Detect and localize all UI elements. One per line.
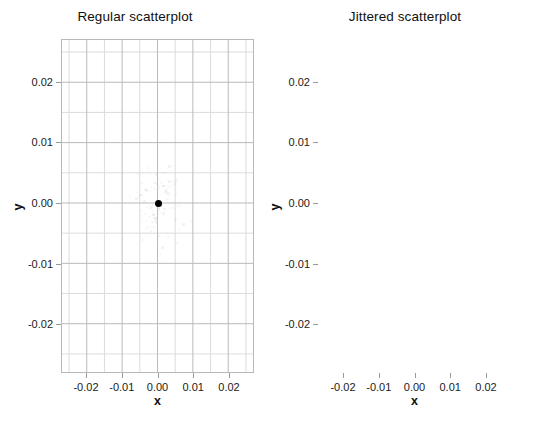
haze-dot — [155, 217, 157, 219]
haze-dot — [154, 188, 156, 190]
plot-area-regular — [61, 39, 254, 373]
panel-jittered-scatterplot: Jittered scatterplot -0.02-0.010.000.010… — [270, 0, 540, 427]
haze-dot — [157, 234, 160, 237]
y-tick-mark — [313, 264, 318, 265]
figure-canvas: Regular scatterplot -0.02-0.010.000.010.… — [0, 0, 540, 427]
y-tick-mark — [313, 203, 318, 204]
x-tick-mark — [343, 373, 344, 378]
haze-dot — [155, 173, 157, 175]
y-tick-label: 0.01 — [270, 136, 310, 148]
haze-dot — [168, 181, 170, 183]
haze-dot — [152, 216, 155, 219]
y-tick-mark — [56, 142, 61, 143]
x-tick-mark — [122, 373, 123, 378]
y-tick-label: -0.02 — [270, 318, 310, 330]
haze-dot — [149, 225, 152, 228]
panel-regular-scatterplot: Regular scatterplot -0.02-0.010.000.010.… — [0, 0, 270, 427]
y-tick-label: -0.01 — [270, 258, 310, 270]
haze-dot — [145, 220, 147, 222]
haze-dot — [136, 191, 139, 194]
x-axis-label-regular: x — [61, 394, 254, 408]
haze-dot — [152, 204, 154, 206]
haze-dot — [151, 186, 153, 188]
y-tick-mark — [56, 203, 61, 204]
haze-dot — [172, 184, 174, 186]
x-tick-mark — [486, 373, 487, 378]
x-tick-label: 0.02 — [475, 381, 496, 393]
y-axis-label-regular: y — [11, 177, 25, 237]
haze-dot — [176, 205, 178, 207]
x-tick-label: 0.01 — [439, 381, 460, 393]
y-tick-label: 0.02 — [270, 76, 310, 88]
haze-dot — [179, 205, 182, 208]
y-tick-label: 0.02 — [13, 76, 53, 88]
haze-dot — [169, 207, 171, 209]
x-tick-label: -0.01 — [109, 381, 134, 393]
y-tick-label: 0.01 — [13, 136, 53, 148]
haze-dot — [137, 173, 139, 175]
y-tick-mark — [313, 142, 318, 143]
y-tick-label: -0.02 — [13, 318, 53, 330]
panel-title-regular: Regular scatterplot — [0, 9, 270, 24]
x-tick-label: 0.01 — [182, 381, 203, 393]
haze-dot — [149, 190, 151, 192]
x-tick-mark — [158, 373, 159, 378]
haze-dot — [172, 165, 174, 167]
haze-dot — [182, 223, 185, 226]
y-tick-mark — [56, 264, 61, 265]
x-tick-label: -0.02 — [73, 381, 98, 393]
haze-dot — [140, 218, 141, 219]
haze-dot — [160, 167, 162, 169]
y-tick-mark — [56, 324, 61, 325]
haze-dot — [129, 195, 130, 196]
haze-dot — [159, 253, 161, 255]
haze-dot — [168, 199, 170, 201]
haze-dot — [153, 226, 155, 228]
haze-dot — [157, 219, 158, 220]
y-tick-mark — [313, 82, 318, 83]
haze-dot — [167, 185, 170, 188]
haze-dot — [178, 229, 180, 231]
haze-dot — [165, 189, 168, 192]
y-tick-mark — [313, 324, 318, 325]
haze-dot — [175, 179, 178, 182]
x-tick-mark — [415, 373, 416, 378]
y-axis-label-jittered: y — [268, 177, 282, 237]
haze-dot — [168, 196, 170, 198]
x-tick-mark — [193, 373, 194, 378]
x-tick-label: 0.00 — [147, 381, 168, 393]
x-tick-mark — [86, 373, 87, 378]
x-tick-mark — [450, 373, 451, 378]
haze-dot — [146, 207, 147, 208]
haze-dot — [168, 165, 171, 168]
x-tick-label: 0.02 — [218, 381, 239, 393]
x-tick-mark — [229, 373, 230, 378]
panel-title-jittered: Jittered scatterplot — [270, 9, 540, 24]
x-tick-label: 0.00 — [404, 381, 425, 393]
x-tick-mark — [379, 373, 380, 378]
haze-dot — [147, 167, 150, 170]
x-tick-label: -0.02 — [330, 381, 355, 393]
haze-dot — [138, 195, 140, 197]
x-tick-label: -0.01 — [366, 381, 391, 393]
haze-dot — [151, 221, 153, 223]
y-tick-label: -0.01 — [13, 258, 53, 270]
x-axis-label-jittered: x — [318, 394, 511, 408]
haze-dot — [144, 189, 145, 190]
haze-dot — [175, 193, 177, 195]
haze-dot — [161, 205, 163, 207]
y-tick-mark — [56, 82, 61, 83]
